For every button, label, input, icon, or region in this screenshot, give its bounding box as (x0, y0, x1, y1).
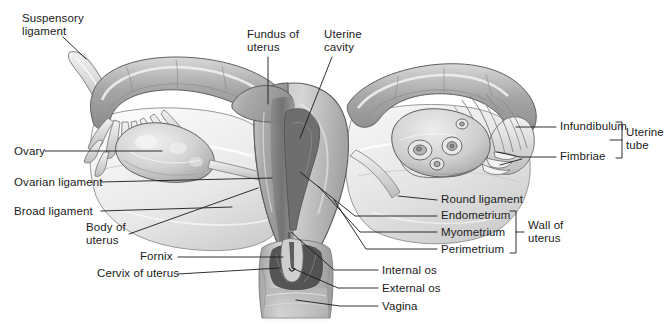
label-uterine-tube: Uterine tube (626, 126, 664, 152)
label-myometrium: Myometrium (441, 226, 505, 239)
label-uterine-cavity: Uterine cavity (324, 28, 362, 54)
label-cervix-of-uterus: Cervix of uterus (97, 267, 179, 280)
label-wall-of-uterus: Wall of uterus (528, 219, 563, 245)
label-ovarian-ligament: Ovarian ligament (14, 176, 103, 189)
label-internal-os: Internal os (382, 264, 437, 277)
label-ovary: Ovary (14, 145, 45, 158)
label-perimetrium: Perimetrium (441, 243, 504, 256)
label-round-ligament: Round ligament (441, 193, 523, 206)
label-body-of-uterus: Body of uterus (86, 221, 126, 247)
label-fundus-of-uterus: Fundus of uterus (247, 28, 299, 54)
label-vagina: Vagina (382, 300, 418, 313)
label-endometrium: Endometrium (441, 209, 511, 222)
anatomy-figure: Suspensory ligament Ovary Ovarian ligame… (0, 0, 665, 325)
label-suspensory-ligament: Suspensory ligament (22, 12, 84, 38)
label-fimbriae: Fimbriae (560, 150, 606, 163)
label-external-os: External os (382, 282, 441, 295)
label-infundibulum: Infundibulum (560, 120, 627, 133)
vagina-shape (259, 239, 333, 322)
label-fornix: Fornix (140, 250, 173, 263)
credit-text (653, 241, 663, 321)
label-broad-ligament: Broad ligament (14, 205, 93, 218)
